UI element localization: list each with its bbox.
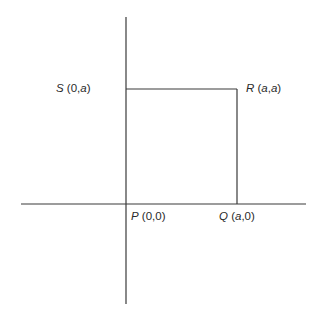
point-label-p: P (0,0) [131, 210, 166, 222]
diagram-figure [0, 0, 323, 321]
paren: ) [251, 210, 255, 222]
paren: ( [64, 82, 71, 94]
paren: ) [277, 82, 281, 94]
paren: ) [162, 210, 166, 222]
point-letter: Q [219, 210, 228, 222]
point-letter: P [131, 210, 139, 222]
point-label-q: Q (a,0) [219, 210, 255, 222]
point-letter: S [56, 82, 64, 94]
paren: ) [87, 82, 91, 94]
paren: ( [228, 210, 235, 222]
paren: ( [139, 210, 146, 222]
point-label-s: S (0,a) [56, 82, 91, 94]
point-label-r: R (a,a) [246, 82, 281, 94]
diagram-canvas: S (0,a) R (a,a) P (0,0) Q (a,0) [0, 0, 323, 321]
